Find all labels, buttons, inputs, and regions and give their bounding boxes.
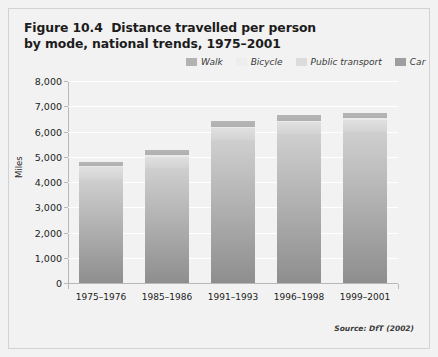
x-axis-tick-mark — [68, 284, 69, 289]
legend-item-bicycle: Bicycle — [236, 57, 283, 67]
bar-segment-car — [343, 132, 387, 284]
y-axis-tick-mark — [64, 182, 68, 183]
y-axis-tick-mark — [64, 157, 68, 158]
y-axis-tick-mark — [64, 233, 68, 234]
legend-swatch-icon — [186, 58, 197, 66]
y-axis-tick-label: 5,000 — [35, 151, 62, 162]
y-axis-tick-mark — [64, 106, 68, 107]
legend-item-public-transport: Public transport — [296, 57, 382, 67]
bar-segment-car — [211, 140, 255, 283]
plot-area: 01,0002,0003,0004,0005,0006,0007,0008,00… — [68, 81, 398, 283]
x-axis-tick-label: 1996–1998 — [274, 292, 324, 302]
bar-segment-public-transport — [145, 157, 189, 169]
legend-label: Car — [410, 57, 426, 67]
y-axis-tick-label: 0 — [56, 278, 62, 289]
bar-segment-public-transport — [343, 120, 387, 132]
bar-segment-public-transport — [277, 122, 321, 134]
bar-segment-public-transport — [211, 128, 255, 141]
legend-label: Walk — [201, 57, 223, 67]
bar-segment-public-transport — [79, 167, 123, 179]
x-axis-tick-label: 1991–1993 — [208, 292, 258, 302]
y-axis-tick-mark — [64, 207, 68, 208]
y-axis-tick-label: 8,000 — [35, 76, 62, 87]
x-axis-line — [68, 283, 398, 284]
x-axis-tick-mark — [398, 284, 399, 289]
legend-swatch-icon — [236, 58, 247, 66]
x-axis-tick-label: 1985–1986 — [142, 292, 192, 302]
legend-swatch-icon — [296, 58, 307, 66]
figure-title-line-2: by mode, national trends, 1975–2001 — [24, 36, 354, 52]
bar-1975-1976 — [79, 162, 123, 283]
y-axis-tick-mark — [64, 132, 68, 133]
chart-legend: WalkBicyclePublic transportCar — [186, 55, 438, 68]
bar-segment-car — [277, 134, 321, 283]
y-axis-tick-label: 7,000 — [35, 101, 62, 112]
legend-label: Bicycle — [251, 57, 283, 67]
legend-swatch-icon — [395, 58, 406, 66]
y-axis-tick-label: 6,000 — [35, 126, 62, 137]
legend-label: Public transport — [311, 57, 382, 67]
bar-1999-2001 — [343, 113, 387, 283]
bar-segment-car — [79, 179, 123, 283]
figure-title-line-1: Figure 10.4 Distance travelled per perso… — [24, 20, 354, 36]
y-axis-tick-label: 3,000 — [35, 202, 62, 213]
x-axis-tick-label: 1975–1976 — [76, 292, 126, 302]
y-axis-tick-mark — [64, 258, 68, 259]
x-axis-tick-label: 1999–2001 — [340, 292, 390, 302]
gridline — [68, 106, 398, 107]
legend-item-walk: Walk — [186, 57, 223, 67]
y-axis-tick-label: 4,000 — [35, 177, 62, 188]
y-axis-label: Miles — [14, 156, 24, 178]
legend-item-car: Car — [395, 57, 426, 67]
bar-1996-1998 — [277, 115, 321, 283]
y-axis-tick-label: 1,000 — [35, 252, 62, 263]
figure-title: Figure 10.4 Distance travelled per perso… — [24, 20, 354, 51]
bar-segment-car — [145, 168, 189, 283]
gridline — [68, 81, 398, 82]
bar-1985-1986 — [145, 150, 189, 283]
source-note: Source: DfT (2002) — [334, 324, 414, 333]
bar-1991-1993 — [211, 121, 255, 283]
y-axis-tick-label: 2,000 — [35, 227, 62, 238]
y-axis-tick-mark — [64, 81, 68, 82]
figure-container: Figure 10.4 Distance travelled per perso… — [0, 0, 438, 357]
